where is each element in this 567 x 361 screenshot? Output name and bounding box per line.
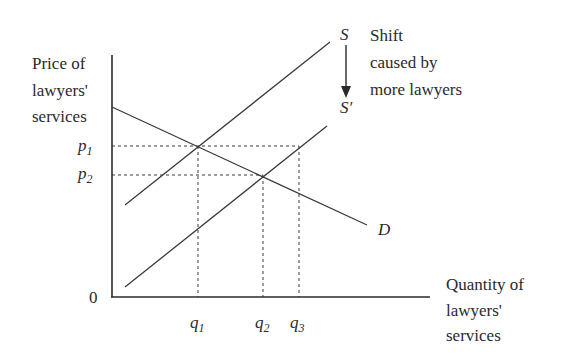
demand-label: D bbox=[377, 220, 391, 239]
q2-label: q2 bbox=[255, 313, 270, 335]
y-axis-label-line3: services bbox=[32, 107, 87, 126]
arrow-head-icon bbox=[341, 86, 351, 98]
demand-curve bbox=[112, 107, 367, 225]
shift-note-line2: caused by bbox=[370, 53, 438, 72]
shifted-supply-curve bbox=[125, 126, 327, 287]
supply-curve bbox=[125, 42, 330, 205]
x-axis-label-line3: services bbox=[446, 326, 501, 345]
y-axis-label-line2: lawyers' bbox=[32, 81, 88, 100]
x-axis-label-line1: Quantity of bbox=[446, 275, 524, 294]
shift-note-line3: more lawyers bbox=[370, 80, 462, 99]
x-axis-label-line2: lawyers' bbox=[446, 301, 502, 320]
supply-label: S bbox=[340, 25, 349, 44]
supply-demand-diagram: Price of lawyers' services p1 p2 0 q1 q2… bbox=[0, 0, 567, 361]
shift-note-line1: Shift bbox=[370, 26, 403, 45]
shifted-supply-label: S′ bbox=[340, 98, 353, 117]
q1-label: q1 bbox=[190, 313, 205, 335]
y-axis-label-line1: Price of bbox=[32, 54, 86, 73]
p1-label: p1 bbox=[77, 136, 93, 158]
p2-label: p2 bbox=[77, 164, 93, 186]
q3-label: q3 bbox=[290, 313, 305, 335]
origin-label: 0 bbox=[89, 288, 98, 307]
